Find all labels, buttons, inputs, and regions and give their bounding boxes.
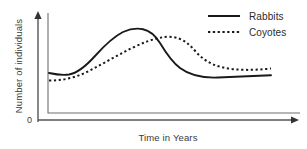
chart-legend: Rabbits Coyotes [208, 11, 286, 38]
y-axis-arrow-icon [34, 11, 41, 19]
x-axis-arrow-icon [291, 116, 299, 123]
origin-label: 0 [27, 115, 32, 125]
x-axis-label: Time in Years [138, 132, 197, 143]
legend-label-coyotes: Coyotes [249, 27, 286, 38]
predator-prey-line-chart: 0 Number of individuals Time in Years Ra… [0, 0, 307, 149]
legend-item-rabbits: Rabbits [208, 11, 284, 22]
y-axis-label: Number of individuals [13, 19, 24, 114]
legend-item-coyotes: Coyotes [208, 27, 286, 38]
chart-figure: 0 Number of individuals Time in Years Ra… [0, 0, 307, 149]
legend-label-rabbits: Rabbits [249, 11, 284, 22]
